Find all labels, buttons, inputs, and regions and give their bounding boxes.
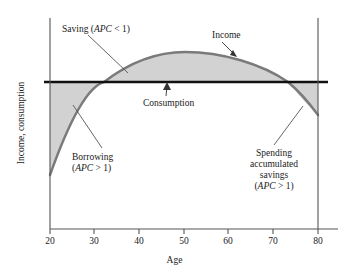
annotation-borrowing-line2: (APC > 1) [72, 163, 142, 174]
annotation-borrowing-paren-close: > 1) [93, 163, 111, 173]
income-leader-arrow [222, 42, 237, 57]
x-axis-title: Age [0, 255, 349, 265]
annotation-spending-line2: accumulated [237, 159, 311, 170]
annotation-saving-suffix: < 1) [112, 24, 130, 34]
x-tick-label-20: 20 [35, 236, 65, 246]
annotation-borrowing: Borrowing (APC > 1) [72, 152, 142, 174]
life-cycle-consumption-chart: Income, consumption Age 20 30 40 50 60 7… [0, 0, 349, 277]
consumption-leader-arrow [163, 82, 171, 96]
annotation-saving-apc: APC [94, 24, 112, 34]
annotation-borrowing-apc: APC [75, 163, 93, 173]
x-tick-label-50: 50 [169, 236, 199, 246]
annotation-spending-paren-close: > 1) [276, 181, 294, 191]
annotation-consumption: Consumption [143, 98, 194, 109]
borrowing-leader-line [73, 105, 102, 148]
annotation-spending-apc: APC [258, 181, 276, 191]
x-tick-label-40: 40 [124, 236, 154, 246]
annotation-spending-line1: Spending [237, 148, 311, 159]
x-tick-label-60: 60 [213, 236, 243, 246]
y-axis-title: Income, consumption [16, 63, 26, 183]
annotation-spending-line3: savings [237, 170, 311, 181]
x-tick-label-30: 30 [79, 236, 109, 246]
annotation-income: Income [212, 30, 241, 41]
annotation-spending-accumulated-savings: Spending accumulated savings (APC > 1) [237, 148, 311, 192]
annotation-spending-line4: (APC > 1) [237, 181, 311, 192]
annotation-saving: Saving (APC < 1) [62, 24, 130, 35]
x-axis-ticks [50, 229, 318, 234]
x-tick-label-70: 70 [258, 236, 288, 246]
annotation-borrowing-line1: Borrowing [72, 152, 142, 163]
annotation-saving-prefix: Saving ( [62, 24, 94, 34]
spending-leader-line [274, 106, 303, 145]
x-tick-label-80: 80 [303, 236, 333, 246]
saving-leader-line [88, 35, 128, 73]
